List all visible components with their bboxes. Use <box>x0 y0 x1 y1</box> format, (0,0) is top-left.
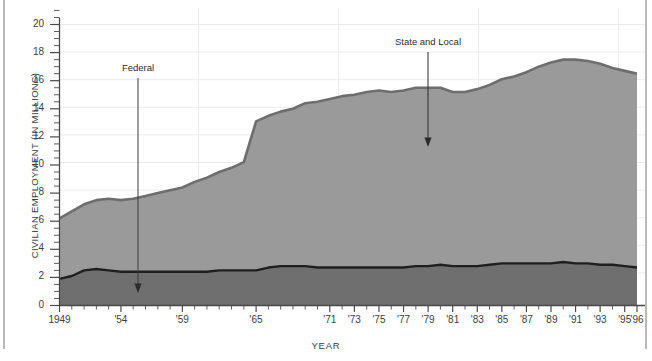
x-axis-ticks <box>60 306 638 313</box>
x-tick-label: '54 <box>104 314 138 325</box>
x-tick-label: 1949 <box>43 314 77 325</box>
figure-root: CIVILIAN EMPLOYMENT (IN MILLIONS) YEAR 2… <box>0 0 652 361</box>
annotation-state-local-label: State and Local <box>373 36 483 47</box>
area-chart-svg <box>0 0 652 361</box>
y-tick-label: 6 <box>18 214 44 225</box>
y-axis-ticks <box>50 10 60 305</box>
y-tick-label: 12 <box>18 130 44 141</box>
x-tick-label: '65 <box>239 314 273 325</box>
y-tick-label: 20 <box>18 18 44 29</box>
x-tick-label: '59 <box>165 314 199 325</box>
y-tick-label: 0 <box>18 299 44 310</box>
y-tick-label: 10 <box>18 158 44 169</box>
x-axis-title: YEAR <box>0 340 652 351</box>
y-tick-label: 18 <box>18 46 44 57</box>
y-tick-label: 14 <box>18 102 44 113</box>
y-tick-label: 16 <box>18 74 44 85</box>
annotation-federal-label: Federal <box>108 62 168 73</box>
y-tick-label: 8 <box>18 186 44 197</box>
y-tick-label: 2 <box>18 270 44 281</box>
y-tick-label: 4 <box>18 242 44 253</box>
x-tick-label: '96 <box>620 314 652 325</box>
